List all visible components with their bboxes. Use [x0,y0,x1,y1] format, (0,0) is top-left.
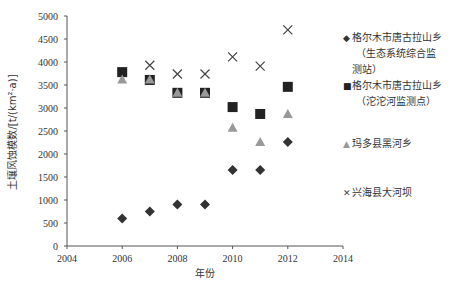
legend-label: 格尔木市唐古拉山乡 [352,30,456,46]
x-point [145,61,154,70]
x-tick-label: 2008 [167,253,187,264]
legend-label: 玛多县黑河乡 [352,136,456,152]
y-tick-label: 4000 [38,57,58,68]
x-tick-label: 2010 [223,253,243,264]
x-tick-label: 2012 [278,253,298,264]
legend-item-tanggula-station: ◆ 格尔木市唐古拉山乡 （生态系统综合监 测站） [352,30,456,78]
legend-label: （沱沱河监测点） [352,94,456,110]
triangle-point [283,109,293,118]
diamond-marker-icon: ◆ [343,30,350,46]
diamond-point [283,137,293,147]
legend-label: （生态系统综合监 [352,46,456,62]
x-tick-label: 2004 [57,253,77,264]
square-point [255,109,265,119]
axes: 0500100015002000250030003500400045005000… [38,11,353,265]
diamond-point [172,200,182,210]
diamond-point [228,165,238,175]
triangle-point [255,137,265,146]
y-tick-label: 4500 [38,34,58,45]
triangle-marker-icon: ▲ [343,136,350,152]
legend-item-tuotuohe-point: ■ 格尔木市唐古拉山乡 （沱沱河监测点） [352,78,456,110]
x-point [283,25,292,34]
data-points [117,25,293,223]
y-tick-label: 3000 [38,103,58,114]
x-point [201,69,210,78]
triangle-point [228,123,238,132]
diamond-point [200,200,210,210]
diamond-point [255,165,265,175]
square-point [228,102,238,112]
x-marker-icon: ✕ [343,185,351,201]
y-tick-label: 2500 [38,126,58,137]
x-axis-title: 年份 [195,267,215,279]
y-tick-label: 5000 [38,11,58,22]
y-tick-label: 1000 [38,195,58,206]
diamond-point [117,213,127,223]
legend-label: 格尔木市唐古拉山乡 [352,78,456,94]
legend-label: 兴海县大河坝 [352,185,456,201]
x-point [228,52,237,61]
x-tick-label: 2006 [112,253,132,264]
x-point [173,69,182,78]
square-point [283,82,293,92]
x-point [256,62,265,71]
y-tick-label: 500 [43,218,58,229]
square-marker-icon: ■ [343,78,352,94]
y-tick-label: 0 [53,241,58,252]
legend-label: 测站） [352,62,456,78]
y-tick-label: 1500 [38,172,58,183]
legend-item-heihe: ▲ 玛多县黑河乡 [352,136,456,152]
legend-item-daheba: ✕ 兴海县大河坝 [352,185,456,201]
diamond-point [145,207,155,217]
x-tick-label: 2014 [333,253,353,264]
y-tick-label: 2000 [38,149,58,160]
y-axis-title: 土壤风蚀模数/[t/(km²·a)] [6,74,18,189]
y-tick-label: 3500 [38,80,58,91]
